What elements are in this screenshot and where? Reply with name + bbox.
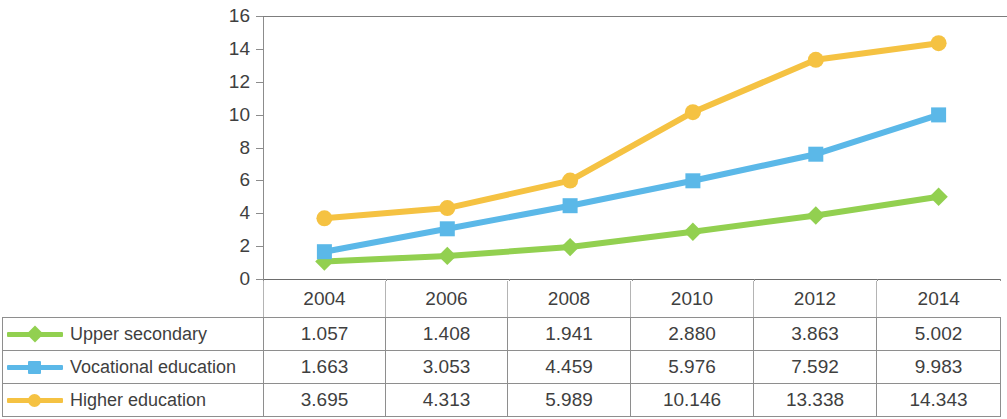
- column-header-year: 2014: [877, 281, 1001, 318]
- legend-entry: Upper secondary: [7, 324, 263, 344]
- legend-label: Upper secondary: [70, 324, 207, 344]
- data-table: 200420062008201020122014Upper secondary1…: [2, 281, 1001, 417]
- data-point-marker: [684, 223, 702, 241]
- square-marker-icon: [7, 361, 63, 373]
- legend-row-label-cell: Vocational education: [3, 351, 264, 384]
- series-line-diamond: [324, 197, 938, 262]
- column-header-year: 2010: [631, 281, 754, 318]
- data-point-marker: [439, 200, 455, 216]
- table-cell-value: 1.408: [386, 318, 508, 351]
- table-cell-value: 2.880: [631, 318, 754, 351]
- series-line-square: [324, 115, 938, 252]
- circle-marker-icon: [7, 394, 63, 406]
- data-point-marker: [808, 52, 824, 68]
- table-row: Upper secondary1.0571.4081.9412.8803.863…: [3, 318, 1001, 351]
- data-point-marker: [438, 247, 456, 265]
- column-header-year: 2006: [386, 281, 508, 318]
- column-header-year: 2012: [754, 281, 877, 318]
- data-point-marker: [931, 35, 947, 51]
- table-cell-value: 9.983: [877, 351, 1001, 384]
- data-point-marker: [808, 147, 823, 162]
- data-point-marker: [316, 210, 332, 226]
- table-cell-value: 4.459: [508, 351, 631, 384]
- legend-row-label-cell: Higher education: [3, 384, 264, 417]
- data-point-marker: [440, 221, 455, 236]
- table-cell-value: 5.976: [631, 351, 754, 384]
- data-point-marker: [561, 238, 579, 256]
- column-header-year: 2008: [508, 281, 631, 318]
- plot-area: 1614121086420: [0, 0, 1007, 281]
- data-point-marker: [685, 173, 700, 188]
- legend-label: Higher education: [70, 390, 206, 410]
- table-cell-value: 5.002: [877, 318, 1001, 351]
- table-cell-value: 14.343: [877, 384, 1001, 417]
- table-cell-value: 4.313: [386, 384, 508, 417]
- table-cell-value: 7.592: [754, 351, 877, 384]
- data-point-marker: [685, 104, 701, 120]
- data-point-marker: [317, 244, 332, 259]
- table-row: Vocational education1.6633.0534.4595.976…: [3, 351, 1001, 384]
- table-corner-cell: [3, 281, 264, 318]
- data-point-marker: [929, 188, 947, 206]
- table-cell-value: 3.863: [754, 318, 877, 351]
- legend-entry: Vocational education: [7, 357, 263, 377]
- diamond-marker-icon: [7, 328, 63, 340]
- table-cell-value: 3.695: [264, 384, 386, 417]
- legend-entry: Higher education: [7, 390, 263, 410]
- data-point-marker: [563, 198, 578, 213]
- table-row: Higher education3.6954.3135.98910.14613.…: [3, 384, 1001, 417]
- series-lines: [0, 0, 1007, 281]
- table-cell-value: 5.989: [508, 384, 631, 417]
- table-header-row: 200420062008201020122014: [3, 281, 1001, 318]
- column-header-year: 2004: [264, 281, 386, 318]
- table-cell-value: 1.663: [264, 351, 386, 384]
- data-point-marker: [562, 173, 578, 189]
- line-chart-figure: 1614121086420 200420062008201020122014Up…: [0, 0, 1007, 419]
- table-cell-value: 3.053: [386, 351, 508, 384]
- table-cell-value: 10.146: [631, 384, 754, 417]
- table-cell-value: 1.057: [264, 318, 386, 351]
- table-cell-value: 1.941: [508, 318, 631, 351]
- table-cell-value: 13.338: [754, 384, 877, 417]
- data-point-marker: [807, 206, 825, 224]
- legend-row-label-cell: Upper secondary: [3, 318, 264, 351]
- data-point-marker: [931, 107, 946, 122]
- legend-label: Vocational education: [70, 357, 236, 377]
